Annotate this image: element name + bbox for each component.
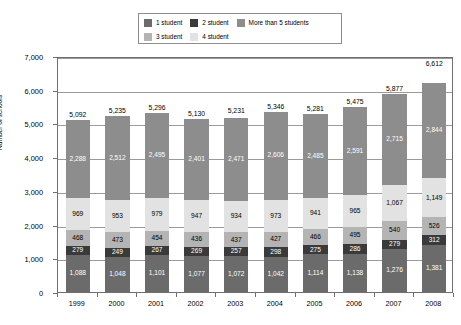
bar-group-2007[interactable]: 1,2762795401,0672,7155,877 xyxy=(382,94,407,292)
bar-segment[interactable]: 2,715 xyxy=(382,94,407,186)
bar-segment[interactable]: 947 xyxy=(184,200,209,232)
bar-segment[interactable]: 1,101 xyxy=(145,255,170,292)
bar-segment[interactable]: 979 xyxy=(145,198,170,231)
bar-segment[interactable]: 1,077 xyxy=(184,256,209,292)
bar-segment-value-label: 1,088 xyxy=(70,270,87,277)
bar-segment[interactable]: 286 xyxy=(343,244,368,254)
bar-segment[interactable]: 298 xyxy=(264,247,289,257)
y-tick-label: 3,000 xyxy=(25,187,44,196)
bar-segment-value-label: 1,072 xyxy=(228,271,245,278)
bar-segment[interactable]: 2,485 xyxy=(303,114,328,198)
x-tick-mark xyxy=(374,293,375,297)
bar-segment[interactable]: 468 xyxy=(66,230,91,246)
bar-group-2004[interactable]: 1,0422984279732,6065,346 xyxy=(264,112,289,292)
bar-segment[interactable]: 267 xyxy=(145,246,170,255)
bar-segment[interactable]: 941 xyxy=(303,198,328,230)
bar-group-2003[interactable]: 1,0722574379342,4715,231 xyxy=(224,118,249,292)
legend-row: 1 student2 studentMore than 5 students xyxy=(144,17,336,29)
bar-segment[interactable]: 466 xyxy=(303,229,328,245)
y-tick-label: 1,000 xyxy=(25,255,44,264)
bar-segment-value-label: 257 xyxy=(231,248,242,255)
bar-segment[interactable]: 269 xyxy=(184,247,209,256)
bar-segment-value-label: 1,077 xyxy=(188,271,205,278)
bar-segment[interactable]: 969 xyxy=(66,198,91,231)
bar-segment[interactable]: 2,606 xyxy=(264,112,289,200)
bar-segment-value-label: 275 xyxy=(310,247,321,254)
legend-swatch-icon xyxy=(190,33,198,41)
bar-segment[interactable]: 427 xyxy=(264,232,289,246)
x-tick-mark xyxy=(57,293,58,297)
bar-segment[interactable]: 249 xyxy=(105,248,130,256)
bar-segment[interactable]: 2,844 xyxy=(422,83,447,179)
bar-segment-value-label: 1,048 xyxy=(109,271,126,278)
bar-segment[interactable]: 279 xyxy=(66,246,91,255)
bar-segment[interactable]: 312 xyxy=(422,235,447,246)
legend-swatch-icon xyxy=(237,19,245,27)
x-tick-label-2008: 2008 xyxy=(425,299,441,308)
bar-segment[interactable]: 279 xyxy=(382,240,407,249)
bar-segment[interactable]: 953 xyxy=(105,200,130,232)
bar-segment-value-label: 1,101 xyxy=(149,270,166,277)
x-tick-mark xyxy=(255,293,256,297)
bar-segment-value-label: 1,114 xyxy=(307,270,323,277)
y-tick-label: 2,000 xyxy=(25,221,44,230)
bar-segment[interactable]: 2,495 xyxy=(145,113,170,197)
bar-segment[interactable]: 1,072 xyxy=(224,256,249,292)
bar-segment-value-label: 249 xyxy=(112,249,123,256)
bar-segment-value-label: 540 xyxy=(389,227,400,234)
bar-segment[interactable]: 1,088 xyxy=(66,255,91,292)
bar-segment-value-label: 973 xyxy=(270,213,281,220)
bar-segment[interactable]: 275 xyxy=(303,245,328,254)
x-tick-label-2001: 2001 xyxy=(148,299,164,308)
bar-segment-value-label: 2,591 xyxy=(347,148,364,155)
bar-group-2005[interactable]: 1,1142754669412,4855,281 xyxy=(303,114,328,292)
bar-segment-value-label: 979 xyxy=(151,211,162,218)
x-tick-mark xyxy=(176,293,177,297)
bar-segment[interactable]: 495 xyxy=(343,227,368,244)
bar-segment[interactable]: 1,138 xyxy=(343,254,368,292)
bar-segment[interactable]: 1,042 xyxy=(264,257,289,292)
bar-segment[interactable]: 526 xyxy=(422,217,447,235)
bar-segment[interactable]: 473 xyxy=(105,232,130,248)
bar-segment-value-label: 454 xyxy=(151,235,162,242)
x-tick-mark xyxy=(413,293,414,297)
bar-group-2002[interactable]: 1,0772694369472,4015,130 xyxy=(184,119,209,292)
bar-segment[interactable]: 437 xyxy=(224,232,249,247)
bar-segment[interactable]: 934 xyxy=(224,201,249,232)
legend-item-2-student[interactable]: 2 student xyxy=(190,19,228,27)
bar-group-2001[interactable]: 1,1012674549792,4955,296 xyxy=(145,113,170,292)
bar-segment[interactable]: 1,114 xyxy=(303,254,328,292)
legend-item-more-than-5-students[interactable]: More than 5 students xyxy=(237,19,309,27)
bar-segment[interactable]: 973 xyxy=(264,200,289,233)
bar-segment[interactable]: 2,591 xyxy=(343,107,368,194)
bar-total-label: 6,612 xyxy=(426,60,443,67)
bar-segment[interactable]: 257 xyxy=(224,247,249,256)
bar-segment[interactable]: 2,512 xyxy=(105,116,130,201)
bar-segment[interactable]: 1,048 xyxy=(105,257,130,292)
bar-segment[interactable]: 1,381 xyxy=(422,245,447,292)
bar-segment-value-label: 1,381 xyxy=(426,265,443,272)
bar-segment[interactable]: 2,401 xyxy=(184,119,209,200)
bar-segment[interactable]: 2,288 xyxy=(66,120,91,197)
bar-segment[interactable]: 540 xyxy=(382,221,407,239)
bar-segment-value-label: 2,715 xyxy=(386,136,403,143)
bar-total-label: 5,296 xyxy=(148,104,165,111)
bar-segment[interactable]: 454 xyxy=(145,231,170,246)
bar-segment-value-label: 298 xyxy=(270,249,281,256)
bar-group-2006[interactable]: 1,1382864959652,5915,475 xyxy=(343,107,368,292)
bar-segment[interactable]: 2,471 xyxy=(224,118,249,201)
bar-segment[interactable]: 436 xyxy=(184,232,209,247)
bar-group-2008[interactable]: 1,3813125261,1492,8446,612 xyxy=(422,83,447,292)
bar-segment-value-label: 437 xyxy=(231,237,242,244)
legend-item-1-student[interactable]: 1 student xyxy=(144,19,182,27)
legend-item-4-student[interactable]: 4 student xyxy=(190,33,228,41)
bar-total-label: 5,235 xyxy=(109,107,126,114)
bar-segment[interactable]: 1,067 xyxy=(382,185,407,221)
bar-group-1999[interactable]: 1,0882794689692,2885,092 xyxy=(66,120,91,292)
bar-segment-value-label: 969 xyxy=(72,211,83,218)
bar-segment[interactable]: 965 xyxy=(343,195,368,228)
bar-segment[interactable]: 1,276 xyxy=(382,249,407,292)
legend-item-3-student[interactable]: 3 student xyxy=(144,33,182,41)
bar-group-2000[interactable]: 1,0482494739532,5125,235 xyxy=(105,116,130,292)
bar-segment[interactable]: 1,149 xyxy=(422,178,447,217)
